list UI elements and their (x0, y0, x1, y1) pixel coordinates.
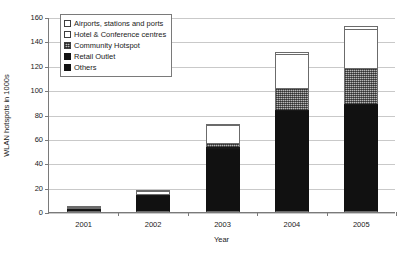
bar-segment[interactable] (275, 88, 309, 110)
bar-stack-2001[interactable] (67, 206, 101, 212)
y-axis-tick-label: 60 (35, 136, 43, 144)
legend-item-label: Hotel & Conference centres (74, 29, 166, 40)
y-axis-tick-label: 160 (30, 14, 43, 22)
y-axis-label-wrap: WLAN hotspots in 1000s (0, 18, 14, 213)
legend-item-label: Airports, stations and ports (74, 18, 163, 29)
legend-item-label: Retail Outlet (74, 51, 115, 62)
bar-segment[interactable] (67, 210, 101, 212)
legend-item[interactable]: Others (64, 62, 166, 73)
x-axis-tick-label: 2005 (353, 221, 370, 229)
y-axis-tick-label: 140 (30, 39, 43, 47)
legend-item[interactable]: Hotel & Conference centres (64, 29, 166, 40)
bar-segment[interactable] (206, 149, 240, 212)
x-axis-tick (396, 212, 397, 216)
bar-stack-2003[interactable] (206, 124, 240, 212)
bar-stack-2005[interactable] (344, 26, 378, 212)
y-axis-tick-label: 80 (35, 112, 43, 120)
legend-swatch-icon (64, 31, 71, 38)
y-axis-tick-label: 20 (35, 185, 43, 193)
bar-stack-2002[interactable] (136, 190, 170, 213)
chart-container: WLAN hotspots in 1000s 02040608010012014… (0, 0, 415, 254)
bar-segment[interactable] (344, 29, 378, 68)
bar-segment[interactable] (344, 68, 378, 103)
legend-item[interactable]: Community Hotspot (64, 40, 166, 51)
legend-swatch-icon (64, 64, 71, 71)
gridline (49, 213, 395, 214)
x-axis-tick-label: 2003 (214, 221, 231, 229)
y-axis-tick-label: 0 (39, 209, 43, 217)
legend-item[interactable]: Retail Outlet (64, 51, 166, 62)
y-axis-tick-label: 40 (35, 161, 43, 169)
bar-segment[interactable] (344, 105, 378, 212)
y-axis-tick (45, 213, 49, 214)
legend-item-label: Others (74, 62, 97, 73)
legend-item-label: Community Hotspot (74, 40, 140, 51)
y-axis-tick-label: 120 (30, 63, 43, 71)
x-axis-tick-label: 2004 (284, 221, 301, 229)
bar-segment[interactable] (136, 196, 170, 212)
chart-legend: Airports, stations and portsHotel & Conf… (60, 14, 172, 77)
bar-segment[interactable] (206, 125, 240, 142)
x-axis-tick (118, 212, 119, 216)
x-axis-tick (327, 212, 328, 216)
x-axis-tick (188, 212, 189, 216)
bar-stack-2004[interactable] (275, 52, 309, 212)
legend-item[interactable]: Airports, stations and ports (64, 18, 166, 29)
y-axis-tick-label: 100 (30, 87, 43, 95)
bar-segment[interactable] (275, 111, 309, 212)
x-axis-tick (257, 212, 258, 216)
x-axis-tick-label: 2002 (145, 221, 162, 229)
bar-segment[interactable] (275, 54, 309, 88)
legend-swatch-icon (64, 20, 71, 27)
x-axis-label: Year (48, 236, 395, 244)
legend-swatch-icon (64, 53, 71, 60)
legend-swatch-icon (64, 42, 71, 49)
y-axis-label: WLAN hotspots in 1000s (0, 18, 14, 213)
x-axis-tick-label: 2001 (75, 221, 92, 229)
